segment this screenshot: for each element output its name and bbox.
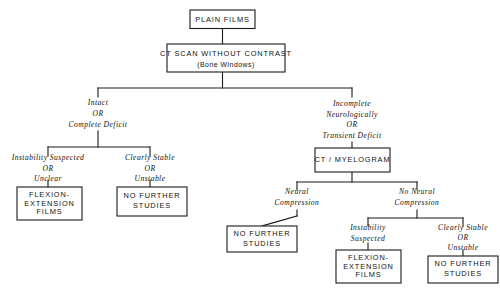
clearly-stable-right-line1: Clearly Stable (438, 223, 488, 232)
ct-myelogram-label: CT / MYELOGRAM (315, 155, 391, 164)
no-neural-compression-line2: Compression (395, 198, 440, 207)
clearly-stable-left-line3: Unstable (134, 174, 165, 183)
incomplete-line2: Neurologically (325, 110, 378, 119)
flexion-left-label-line3: FILMS (36, 207, 62, 216)
branch-label-incomplete: Incomplete Neurologically OR Transient D… (323, 99, 382, 140)
instability-suspected-line2: Suspected (351, 234, 385, 243)
branch-label-neural-compression: Neural Compression (275, 187, 320, 207)
node-flexion-extension-films-right[interactable]: FLEXION- EXTENSION FILMS (336, 250, 401, 283)
branch-label-clearly-stable-left: Clearly Stable OR Unstable (125, 153, 175, 183)
node-ct-scan[interactable]: CT SCAN WITHOUT CONTRAST (Bone Windows) (160, 44, 292, 72)
neural-compression-line1: Neural (284, 187, 309, 196)
flowchart-diagram: PLAIN FILMS CT SCAN WITHOUT CONTRAST (Bo… (0, 0, 500, 292)
clearly-stable-right-line2: OR (457, 233, 468, 242)
flexion-right-label-line3: FILMS (355, 270, 381, 279)
incomplete-line4: Transient Deficit (323, 131, 382, 140)
clearly-stable-right-line3: Unstable (447, 243, 478, 252)
node-plain-films[interactable]: PLAIN FILMS (190, 10, 255, 29)
node-no-further-studies-left[interactable]: NO FURTHER STUDIES (117, 187, 187, 216)
no-further-right-label-line2: STUDIES (444, 269, 482, 278)
node-no-further-studies-right[interactable]: NO FURTHER STUDIES (428, 256, 498, 283)
instability-unclear-line1: Instability Suspected (11, 153, 85, 162)
branch-label-intact: Intact OR Complete Deficit (69, 98, 128, 129)
ct-scan-label-line1: CT SCAN WITHOUT CONTRAST (160, 49, 292, 58)
incomplete-line3: OR (346, 120, 357, 129)
no-further-left-label-line1: NO FURTHER (124, 191, 181, 200)
no-neural-compression-line1: No Neural (398, 187, 435, 196)
clearly-stable-left-line1: Clearly Stable (125, 153, 175, 162)
incomplete-line1: Incomplete (332, 99, 371, 108)
clearly-stable-left-line2: OR (144, 164, 155, 173)
node-no-further-studies-middle[interactable]: NO FURTHER STUDIES (227, 226, 297, 252)
branch-label-no-neural-compression: No Neural Compression (395, 187, 440, 207)
instability-unclear-line3: Unclear (34, 174, 62, 183)
no-further-right-label-line1: NO FURTHER (435, 259, 492, 268)
intact-line2: OR (92, 109, 103, 118)
no-further-left-label-line2: STUDIES (133, 201, 171, 210)
branch-label-clearly-stable-right: Clearly Stable OR Unstable (438, 223, 488, 252)
node-flexion-extension-films-left[interactable]: FLEXION- EXTENSION FILMS (17, 187, 82, 220)
connector-neural-compression-diagonal (262, 216, 297, 226)
no-further-middle-label-line2: STUDIES (243, 239, 281, 248)
branch-label-instability-unclear: Instability Suspected OR Unclear (11, 153, 85, 183)
ct-scan-label-line2: (Bone Windows) (197, 61, 255, 69)
plain-films-label: PLAIN FILMS (195, 15, 250, 24)
intact-line3: Complete Deficit (69, 120, 128, 129)
no-further-middle-label-line1: NO FURTHER (234, 229, 291, 238)
instability-unclear-line2: OR (42, 164, 53, 173)
intact-line1: Intact (87, 98, 109, 107)
node-ct-myelogram[interactable]: CT / MYELOGRAM (315, 148, 391, 172)
branch-label-instability-suspected: Instability Suspected (349, 223, 386, 243)
instability-suspected-line1: Instability (349, 223, 386, 232)
neural-compression-line2: Compression (275, 198, 320, 207)
